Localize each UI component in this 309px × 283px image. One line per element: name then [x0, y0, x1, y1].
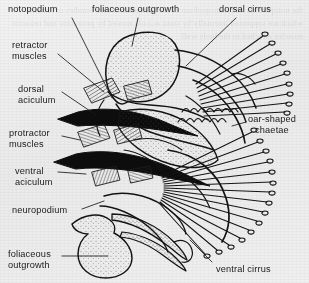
label-dorsal-cirrus: dorsal cirrus	[219, 4, 271, 15]
label-foliaceous-outgrowth-bottom: foliaceous outgrowth	[8, 249, 51, 270]
label-neuropodium: neuropodium	[12, 205, 67, 216]
parapodium-figure: the notopodium and neuropodium of the pa…	[0, 0, 309, 283]
label-retractor-muscles: retractor muscles	[12, 40, 48, 61]
label-protractor-muscles: protractor muscles	[9, 128, 50, 149]
foliaceous-outgrowth-ventral-shape	[72, 215, 132, 278]
label-foliaceous-outgrowth-top: foliaceous outgrowth	[92, 4, 179, 15]
label-ventral-cirrus: ventral cirrus	[216, 264, 271, 275]
notopodial-chaetal-fan	[196, 32, 293, 116]
label-dorsal-aciculum: dorsal aciculum	[18, 84, 55, 105]
label-notopodium: notopodium	[8, 4, 58, 15]
label-ventral-aciculum: ventral aciculum	[15, 166, 52, 187]
label-oar-shaped-chaetae: oar-shaped chaetae	[248, 114, 296, 135]
